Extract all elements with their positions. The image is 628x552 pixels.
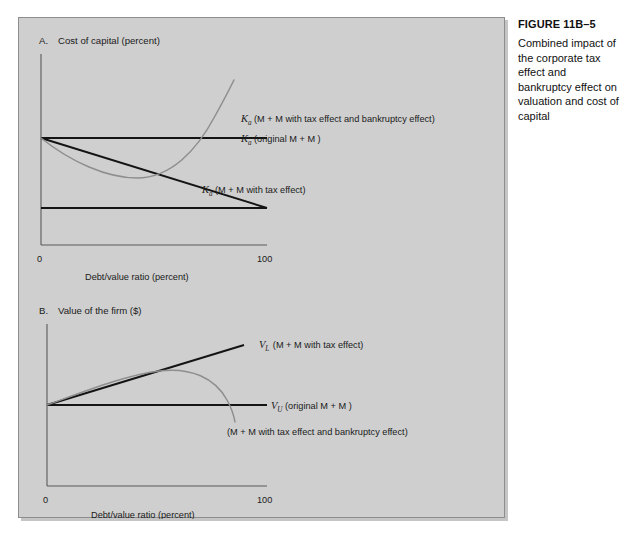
panel-a-bankruptcy-text: (M + M with tax effect and bankruptcy ef… xyxy=(254,114,435,124)
panel-b-levered-subscript: L xyxy=(264,345,269,353)
panel-a-original-subscript: a xyxy=(248,139,252,147)
figure-caption-body: Combined impact of the corporate tax eff… xyxy=(518,36,622,123)
panel-a-bankruptcy-subscript: a xyxy=(248,119,252,127)
figure-container: A. Cost of capital (percent) 0 100 Debt/… xyxy=(0,0,628,552)
figure-caption-title: FIGURE 11B–5 xyxy=(518,18,622,31)
panel-b-heading: Value of the firm ($) xyxy=(58,305,142,316)
chart-svg: A. Cost of capital (percent) 0 100 Debt/… xyxy=(19,18,506,519)
panel-a-tick-0: 0 xyxy=(37,254,42,264)
panel-b-tick-0: 0 xyxy=(43,495,48,505)
panel-b-annotation-levered: VL(M + M with tax effect) xyxy=(259,339,363,353)
svg-text:VU(original M + M ): VU(original M + M ) xyxy=(271,400,352,414)
panel-b-group: B. Value of the firm ($) 0 100 Debt/valu… xyxy=(39,305,408,519)
svg-text:Ka(M + M with tax effect and: Ka(M + M with tax effect and bankruptcy … xyxy=(240,113,435,127)
panel-a-annotation-bankruptcy: Ka(M + M with tax effect and bankruptcy … xyxy=(240,113,435,127)
panel-a-tax-text: (M + M with tax effect) xyxy=(215,185,305,195)
chart-panel: A. Cost of capital (percent) 0 100 Debt/… xyxy=(18,17,505,518)
series-panel-b-levered xyxy=(47,345,244,405)
svg-text:VL(M + M with tax effect): VL(M + M with tax effect) xyxy=(259,339,363,353)
panel-a-x-axis-label: Debt/value ratio (percent) xyxy=(85,272,189,282)
series-panel-a-tax-effect xyxy=(41,138,267,208)
panel-a-annotation-tax: Ka(M + M with tax effect) xyxy=(201,184,305,198)
panel-a-group: A. Cost of capital (percent) 0 100 Debt/… xyxy=(37,35,435,282)
panel-b-unlevered-text: (original M + M ) xyxy=(285,401,352,411)
panel-b-annotation-bankruptcy: (M + M with tax effect and bankruptcy ef… xyxy=(227,427,408,437)
panel-a-annotation-original: Ka(original M + M ) xyxy=(240,133,321,147)
series-panel-a-bankruptcy xyxy=(41,80,234,178)
panel-a-tick-100: 100 xyxy=(257,254,272,264)
panel-a-tax-subscript: a xyxy=(209,190,213,198)
panel-a-heading: Cost of capital (percent) xyxy=(58,35,160,46)
panel-b-levered-text: (M + M with tax effect) xyxy=(273,340,363,350)
svg-text:Ka(M + M with tax effect): Ka(M + M with tax effect) xyxy=(201,184,305,198)
panel-b-x-axis-label: Debt/value ratio (percent) xyxy=(91,510,195,519)
panel-b-letter: B. xyxy=(39,305,48,316)
panel-b-tick-100: 100 xyxy=(257,495,272,505)
panel-b-unlevered-subscript: U xyxy=(277,406,283,414)
panel-a-original-text: (original M + M ) xyxy=(254,134,321,144)
figure-caption: FIGURE 11B–5 Combined impact of the corp… xyxy=(518,18,622,123)
svg-text:Ka(original M + M ): Ka(original M + M ) xyxy=(240,133,321,147)
panel-b-annotation-unlevered: VU(original M + M ) xyxy=(271,400,352,414)
panel-a-letter: A. xyxy=(39,35,48,46)
